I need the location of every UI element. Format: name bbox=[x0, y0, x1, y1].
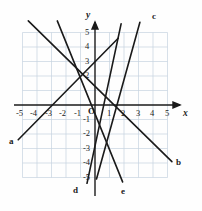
y-tick-3: 3 bbox=[85, 56, 89, 66]
x-tick-5: 5 bbox=[165, 108, 169, 118]
y-tick-5: 5 bbox=[85, 27, 89, 37]
line-label-b: b bbox=[176, 157, 181, 167]
line-label-d: d bbox=[73, 185, 78, 195]
x-tick-1: 1 bbox=[107, 108, 111, 118]
x-tick--5: -5 bbox=[16, 108, 23, 118]
line-label-a: a bbox=[9, 136, 14, 146]
figure-container: x y O -5 -4 -3 -2 -1 1 2 3 4 5 5 4 3 2 -… bbox=[0, 0, 202, 211]
line-d bbox=[87, 24, 121, 184]
x-tick-3: 3 bbox=[136, 108, 140, 118]
x-axis-label: x bbox=[183, 108, 188, 118]
x-tick--3: -3 bbox=[45, 108, 52, 118]
y-tick--2: -2 bbox=[83, 128, 90, 138]
axes bbox=[14, 22, 180, 196]
y-axis-label: y bbox=[86, 10, 90, 20]
y-tick-4: 4 bbox=[85, 41, 89, 51]
y-tick--1: -1 bbox=[83, 114, 90, 124]
x-axis-arrow bbox=[173, 102, 180, 108]
line-label-c: c bbox=[152, 11, 156, 21]
y-tick--3: -3 bbox=[83, 143, 90, 153]
y-axis-arrow bbox=[92, 22, 98, 29]
y-tick--5: -5 bbox=[83, 172, 90, 182]
line-label-e: e bbox=[121, 186, 125, 196]
x-tick--2: -2 bbox=[59, 108, 66, 118]
line-c bbox=[97, 22, 140, 179]
y-tick--4: -4 bbox=[83, 157, 90, 167]
line-b bbox=[28, 21, 172, 162]
y-tick-2: 2 bbox=[85, 70, 89, 80]
x-tick-2: 2 bbox=[121, 108, 125, 118]
line-a bbox=[18, 38, 118, 140]
x-tick-4: 4 bbox=[150, 108, 154, 118]
coordinate-plane-svg bbox=[0, 0, 202, 211]
x-tick--1: -1 bbox=[74, 108, 81, 118]
x-tick--4: -4 bbox=[30, 108, 37, 118]
